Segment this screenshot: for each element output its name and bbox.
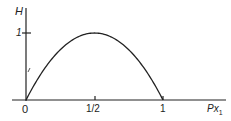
chart-plot bbox=[0, 0, 231, 121]
entropy-curve bbox=[26, 33, 163, 100]
slope-mark bbox=[28, 68, 30, 72]
x-tick-label-1: 1 bbox=[160, 104, 166, 114]
x-axis-label-main: Px bbox=[207, 103, 219, 114]
x-axis-label: Px1 bbox=[207, 104, 223, 116]
x-tick-label-0: 0 bbox=[22, 104, 28, 115]
y-axis-label: H bbox=[15, 6, 23, 17]
x-tick-label-half: 1/2 bbox=[86, 104, 100, 114]
y-tick-label-1: 1 bbox=[16, 28, 22, 38]
x-axis-label-sub: 1 bbox=[219, 109, 223, 116]
